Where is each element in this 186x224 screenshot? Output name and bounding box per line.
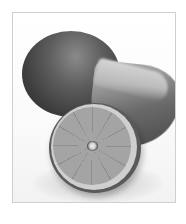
lime-half-core bbox=[87, 141, 98, 151]
lime-half bbox=[49, 103, 141, 193]
photo-frame bbox=[12, 12, 176, 203]
